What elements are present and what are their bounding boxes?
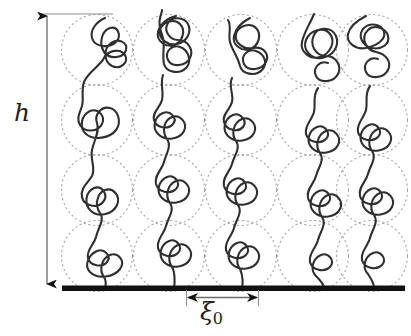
figure-canvas [0, 0, 411, 336]
blob-circle [278, 221, 349, 292]
polymer-chain [224, 18, 267, 288]
blob-circle [206, 155, 277, 226]
polymer-chains [78, 10, 393, 288]
blob-circle [62, 15, 133, 86]
blob-size-label-subscript: 0 [213, 309, 223, 328]
polymer-chain [302, 14, 341, 288]
blob-circle [278, 155, 349, 226]
blob-size-label-symbol: ξ [200, 297, 214, 326]
blob-circle [206, 221, 277, 292]
polymer-blob-figure: h ξ0 [0, 0, 411, 336]
blob-size-label: ξ0 [200, 299, 223, 327]
blob-circle [337, 85, 408, 156]
height-label: h [14, 100, 30, 125]
polymer-chain [154, 10, 192, 288]
substrate-wall [62, 286, 405, 292]
polymer-chain [348, 16, 393, 288]
